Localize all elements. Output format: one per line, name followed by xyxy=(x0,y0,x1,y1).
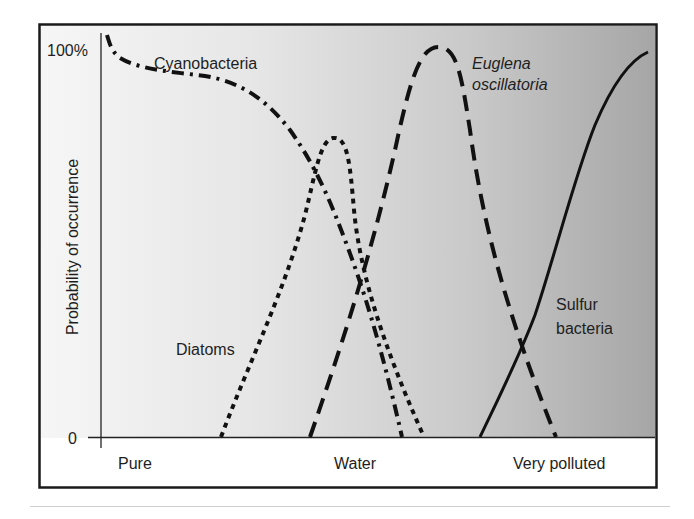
label-euglena-1: Euglena xyxy=(472,55,531,72)
x-label-water: Water xyxy=(334,455,377,472)
chart-figure: 100% 0 Probability of occurrence Pure Wa… xyxy=(0,0,694,519)
y-tick-0: 0 xyxy=(68,430,77,447)
x-label-very-polluted: Very polluted xyxy=(513,455,606,472)
plot-area-background xyxy=(41,26,655,438)
page-rule xyxy=(30,506,670,507)
y-axis-title: Probability of occurrence xyxy=(64,159,81,335)
chart-svg: 100% 0 Probability of occurrence Pure Wa… xyxy=(0,0,694,519)
label-sulfur-1: Sulfur xyxy=(556,296,598,313)
y-tick-100: 100% xyxy=(47,42,88,59)
label-euglena-2: oscillatoria xyxy=(472,76,548,93)
label-cyanobacteria: Cyanobacteria xyxy=(154,55,257,72)
label-sulfur-2: bacteria xyxy=(556,320,613,337)
label-diatoms: Diatoms xyxy=(176,341,235,358)
x-label-pure: Pure xyxy=(118,455,152,472)
